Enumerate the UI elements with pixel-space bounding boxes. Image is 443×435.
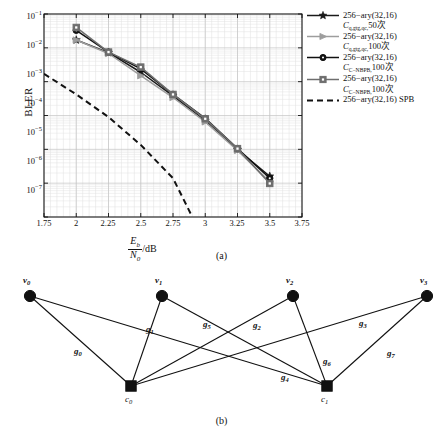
node-label-v3: v3	[420, 275, 427, 286]
edge-label-g7: g7	[387, 348, 395, 359]
check-node-c1[interactable]	[322, 381, 332, 391]
legend-label-1: 256−ary(32,16)	[343, 31, 397, 42]
data-point-marker	[202, 116, 208, 122]
node-label-c1: c1	[321, 394, 328, 405]
edge-label-g4: g4	[281, 372, 289, 383]
graph-edge-v0-c0	[30, 296, 131, 386]
x-tick: 3.25	[222, 218, 252, 228]
variable-node-v3[interactable]	[421, 290, 432, 301]
x-tick: 2.5	[126, 218, 156, 228]
x-tick: 2	[61, 218, 91, 228]
legend-item-1-line2: Cq,gtg,qc,100次	[306, 42, 443, 53]
node-label-v1: v1	[155, 275, 162, 286]
variable-node-v2[interactable]	[287, 290, 298, 301]
data-point-marker	[105, 49, 111, 55]
check-node-c0[interactable]	[126, 381, 136, 391]
x-tick: 3.5	[255, 218, 285, 228]
panel-b-tanner-graph: g0g1g2g3g4g5g6g7v0v1v2v3c0c1 (b)	[0, 268, 443, 435]
graph-edge-v2-c1	[293, 296, 327, 386]
x-axis-ticks: 1.75 2 2.25 2.5 2.75 3 3.25 3.5 3.75	[0, 218, 320, 234]
data-point-marker	[234, 145, 240, 151]
legend-marker-star-icon	[306, 10, 340, 21]
variable-node-v0[interactable]	[24, 290, 35, 301]
panel-a-caption: (a)	[0, 250, 443, 261]
graph-edge-v2-c0	[131, 296, 293, 386]
panel-a-chart: BLER 10−1 10−2 10−3 10−4 10−5 10−6 10−7 …	[0, 0, 443, 268]
x-tick: 2.25	[93, 218, 123, 228]
graph-edges	[30, 296, 427, 386]
node-label-v2: v2	[286, 275, 293, 286]
legend-label-4: 256−ary(32,16) SPB	[343, 94, 414, 105]
graph-edge-v1-c0	[131, 296, 162, 386]
data-point-marker	[138, 64, 144, 70]
legend-marker-triangle-right-icon	[306, 31, 340, 42]
x-tick: 2.75	[158, 218, 188, 228]
x-tick: 3.75	[287, 218, 317, 228]
legend-marker-circle-icon	[306, 52, 340, 63]
legend-item-0[interactable]: 256−ary(32,16)	[306, 10, 443, 21]
edge-label-g5: g5	[203, 319, 211, 330]
edge-label-g6: g6	[323, 356, 331, 367]
node-label-v0: v0	[23, 275, 30, 286]
x-tick: 3	[190, 218, 220, 228]
node-label-c0: c0	[125, 394, 132, 405]
legend-label-0: 256−ary(32,16)	[343, 10, 397, 21]
data-point-marker	[170, 91, 176, 97]
legend-item-4[interactable]: 256−ary(32,16) SPB	[306, 95, 443, 106]
graph-edge-v3-c0	[131, 296, 427, 386]
x-tick: 1.75	[29, 218, 59, 228]
chart-legend: 256−ary(32,16)Cq,gtg,qc,50次256−ary(32,16…	[306, 10, 443, 105]
legend-item-3-line2: CC−NBPB,100次	[306, 84, 443, 95]
edge-label-g3: g3	[359, 318, 367, 329]
legend-item-2-line2: CC−NBPB,100次	[306, 63, 443, 74]
graph-edge-v1-c1	[162, 296, 327, 386]
variable-node-v1[interactable]	[156, 290, 167, 301]
edge-label-g2: g2	[253, 320, 261, 331]
legend-item-0-line2: Cq,gtg,qc,50次	[306, 21, 443, 32]
graph-edge-v3-c1	[327, 296, 427, 386]
data-point-marker	[73, 24, 79, 30]
data-point-marker	[267, 180, 273, 186]
legend-marker-square-icon	[306, 74, 340, 85]
legend-item-3[interactable]: 256−ary(32,16)	[306, 74, 443, 85]
edge-label-g0: g0	[74, 346, 82, 357]
graph-nodes	[24, 290, 432, 391]
edge-label-g1: g1	[146, 324, 154, 335]
tanner-graph-canvas	[0, 268, 443, 418]
legend-marker-dashed-line-icon	[306, 95, 340, 106]
data-point-marker	[320, 76, 326, 82]
data-point-marker	[320, 34, 327, 40]
figure-container: BLER 10−1 10−2 10−3 10−4 10−5 10−6 10−7 …	[0, 0, 443, 435]
panel-b-caption: (b)	[0, 415, 443, 426]
data-point-marker	[319, 11, 327, 19]
x-axis-label-numerator: Eb	[128, 236, 142, 250]
data-point-marker	[320, 55, 326, 61]
legend-label-3: 256−ary(32,16)	[343, 73, 397, 84]
legend-label-2: 256−ary(32,16)	[343, 52, 397, 63]
